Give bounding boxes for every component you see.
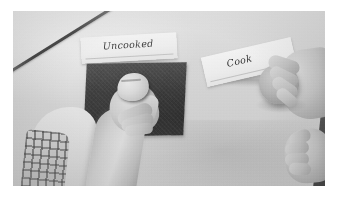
- plaid-sleeve: [20, 129, 71, 186]
- card-rule: [85, 54, 173, 60]
- label-card-uncooked: Uncooked: [80, 32, 177, 63]
- page-root: Uncooked Cook: [0, 0, 338, 197]
- label-card-cooked-text: Cook: [226, 52, 253, 68]
- photograph: Uncooked Cook: [13, 11, 325, 186]
- fist-knuckle: [289, 162, 312, 176]
- label-card-uncooked-text: Uncooked: [103, 38, 154, 52]
